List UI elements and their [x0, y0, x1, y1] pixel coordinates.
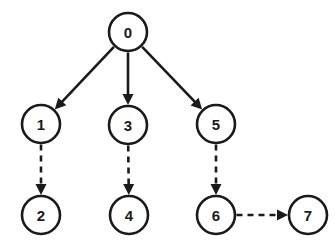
node-label-4: 4	[125, 207, 134, 224]
graph-node-2[interactable]: 2	[22, 196, 60, 234]
graph-edge	[237, 210, 289, 221]
graph-node-5[interactable]: 5	[197, 105, 235, 143]
graph-node-1[interactable]: 1	[22, 105, 60, 143]
graph-diagram-canvas: 01352467	[0, 0, 335, 250]
arrow-head-icon-e0-3	[123, 94, 134, 105]
arrow-head-icon-e5-6	[211, 184, 222, 195]
node-label-5: 5	[212, 116, 220, 133]
node-label-3: 3	[124, 117, 132, 134]
node-label-0: 0	[124, 24, 132, 41]
node-label-7: 7	[304, 207, 312, 224]
node-label-6: 6	[212, 207, 220, 224]
edge-layer	[36, 47, 289, 221]
graph-edge	[123, 145, 134, 195]
graph-diagram-svg: 01352467	[0, 0, 335, 250]
graph-edge	[142, 47, 202, 110]
graph-node-3[interactable]: 3	[109, 106, 147, 144]
edge-line-e0-1	[61, 47, 114, 103]
graph-edge	[123, 53, 134, 106]
graph-node-7[interactable]: 7	[289, 196, 327, 234]
node-layer: 01352467	[22, 13, 327, 234]
graph-edge	[36, 145, 47, 196]
graph-node-0[interactable]: 0	[109, 13, 147, 51]
arrow-head-icon-e1-2	[36, 184, 47, 195]
node-label-1: 1	[37, 116, 45, 133]
graph-node-4[interactable]: 4	[110, 196, 148, 234]
graph-edge	[55, 47, 114, 110]
graph-edge	[211, 145, 222, 196]
graph-node-6[interactable]: 6	[197, 196, 235, 234]
arrow-head-icon-e3-4	[123, 184, 134, 195]
node-label-2: 2	[37, 207, 45, 224]
arrow-head-icon-e6-7	[277, 210, 288, 221]
edge-line-e0-5	[142, 47, 195, 103]
